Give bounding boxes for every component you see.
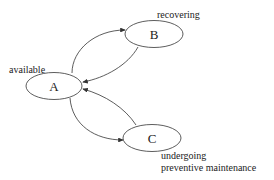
node-b-label: B <box>150 27 159 42</box>
node-b: B <box>125 21 183 48</box>
edge-c-to-a <box>83 89 136 125</box>
state-label-recovering: recovering <box>157 9 200 20</box>
edge-a-to-b <box>72 30 125 73</box>
node-a-label: A <box>49 79 59 94</box>
state-label-preventive-maintenance: preventive maintenance <box>161 162 257 173</box>
state-label-undergoing: undergoing <box>161 150 206 161</box>
edge-b-to-a <box>83 47 138 82</box>
state-label-available: available <box>9 64 46 75</box>
node-c: C <box>123 125 181 152</box>
node-a: A <box>26 73 82 100</box>
state-diagram: A available B recovering C undergoing pr… <box>0 0 274 180</box>
node-c-label: C <box>148 131 157 146</box>
